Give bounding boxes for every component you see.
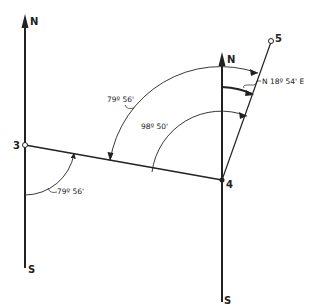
station-5-marker [269, 39, 274, 44]
north-label: N [227, 54, 235, 65]
south-label: S [28, 264, 35, 275]
north-label: N [30, 16, 38, 27]
traverse-line-3-4 [25, 145, 222, 180]
north-arrow-icon [219, 52, 226, 66]
angle-label-outer-at-4: 79º 56' [107, 95, 134, 104]
angle-arc-inner-at-4 [152, 111, 247, 172]
angle-label-at-3: 79º 56' [57, 187, 84, 196]
station-5-label: 5 [275, 33, 282, 44]
bearing-label: N 18º 54' E [262, 77, 304, 86]
angle-arc-outer-at-4 [110, 67, 258, 161]
leader-line [125, 105, 134, 109]
south-label: S [224, 295, 231, 305]
station-3-marker [23, 143, 28, 148]
station-4-marker [220, 178, 225, 183]
arrowhead-icon [250, 69, 258, 76]
angle-label-inner-at-4: 98º 50' [141, 122, 168, 131]
station-3-label: 3 [13, 140, 20, 151]
leader-line [244, 81, 262, 88]
north-arrow-icon [22, 14, 29, 28]
traverse-diagram: N S N S 3 4 5 79º 56' 79º 56' 98º 50' N … [0, 0, 310, 305]
station-4-label: 4 [226, 179, 233, 190]
